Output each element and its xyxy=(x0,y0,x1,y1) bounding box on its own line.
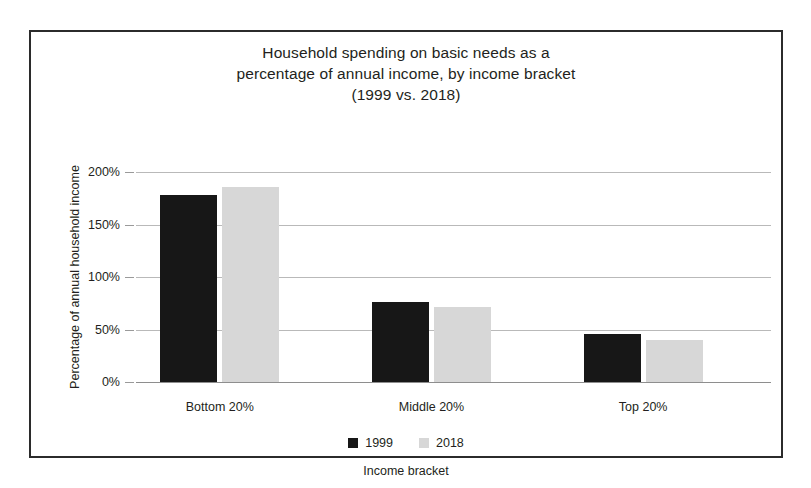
x-axis-title: Income bracket xyxy=(31,464,781,478)
legend-item-2018: 2018 xyxy=(419,436,464,450)
figure-frame: Household spending on basic needs as a p… xyxy=(29,30,783,458)
legend-label-2018: 2018 xyxy=(436,436,464,450)
y-tick-label: 200% xyxy=(88,165,120,179)
chart-title-line-1: Household spending on basic needs as a xyxy=(31,42,781,63)
y-tick-label: 0% xyxy=(102,375,120,389)
y-tick-label: 100% xyxy=(88,270,120,284)
bar-1999-middle-20 xyxy=(372,302,429,382)
bar-1999-top-20 xyxy=(584,334,641,382)
legend-item-1999: 1999 xyxy=(348,436,393,450)
legend-label-1999: 1999 xyxy=(365,436,393,450)
chart-title: Household spending on basic needs as a p… xyxy=(31,42,781,105)
chart-title-line-3: (1999 vs. 2018) xyxy=(31,84,781,105)
y-tick-mark-50% xyxy=(125,330,134,331)
bar-2018-bottom-20 xyxy=(222,187,279,382)
legend-swatch-icon-1999 xyxy=(348,438,358,448)
plot-area: 0%50%100%150%200% xyxy=(136,172,771,382)
chart-title-line-2: percentage of annual income, by income b… xyxy=(31,63,781,84)
x-tick-label-middle-20: Middle 20% xyxy=(399,400,464,414)
bar-2018-top-20 xyxy=(646,340,703,382)
y-tick-label: 50% xyxy=(95,323,120,337)
y-tick-mark-200% xyxy=(125,172,134,173)
bar-2018-middle-20 xyxy=(434,307,491,382)
y-axis-title: Percentage of annual household income xyxy=(68,165,82,389)
legend-swatch-icon-2018 xyxy=(419,438,429,448)
x-tick-label-top-20: Top 20% xyxy=(619,400,668,414)
y-tick-label: 150% xyxy=(88,218,120,232)
x-tick-label-bottom-20: Bottom 20% xyxy=(186,400,254,414)
chart-legend: 1999 2018 xyxy=(31,436,781,450)
bar-1999-bottom-20 xyxy=(160,195,217,382)
gridline-0% xyxy=(136,382,771,383)
y-tick-mark-150% xyxy=(125,225,134,226)
y-tick-mark-0% xyxy=(125,382,134,383)
gridline-200% xyxy=(136,172,771,173)
y-tick-mark-100% xyxy=(125,277,134,278)
